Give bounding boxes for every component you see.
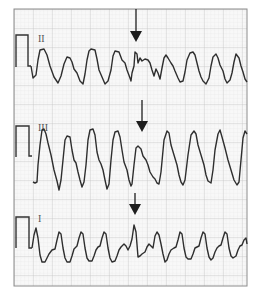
lead-label-ii: II — [38, 33, 45, 44]
lead-label-i: I — [38, 213, 41, 224]
ecg-figure: II III I — [0, 0, 261, 298]
lead-label-iii: III — [38, 122, 48, 133]
